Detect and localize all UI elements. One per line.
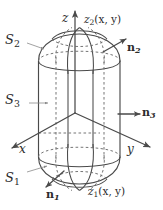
normal-label-n1-base: n: [46, 188, 54, 201]
surface-label-S2: S2: [5, 33, 20, 48]
surface-label-S3: S3: [5, 93, 20, 108]
top-apex-back-arc: [52, 39, 107, 47]
axis-label-z: z: [62, 12, 68, 24]
surface-label-S1-sub: 1: [14, 176, 20, 187]
geometry-figure: z x y S2 S3 S1 n2 n3 n1 z2(x, y) z1(x, y…: [0, 0, 163, 210]
top-cap-outline: [39, 34, 121, 61]
normal-vector-n2: [103, 39, 126, 52]
normal-label-n2: n2: [127, 42, 141, 55]
normal-label-n1: n1: [46, 189, 60, 202]
surface-label-S1-base: S: [5, 170, 14, 185]
normal-label-n3-base: n: [142, 106, 150, 119]
surface-label-S2-base: S: [5, 32, 14, 47]
hidden-lines: [39, 28, 121, 191]
surface-label-S1: S1: [5, 171, 20, 186]
lower-junction-front-arc: [39, 157, 121, 167]
function-label-z1: z1(x, y): [88, 186, 125, 199]
surface-label-S3-sub: 3: [14, 98, 20, 109]
function-label-z2-args: (x, y): [94, 13, 121, 25]
bottom-base-back-arc: [52, 172, 107, 180]
bottom-cap-outline: [39, 157, 121, 184]
normal-label-n1-sub: 1: [54, 192, 60, 202]
coordinate-axes: [12, 11, 150, 148]
upper-junction-back-arc: [39, 51, 121, 61]
figure-drawing: [0, 0, 163, 210]
normal-label-n3: n3: [142, 107, 156, 120]
axis-label-y: y: [127, 143, 134, 155]
y-axis: [75, 113, 150, 147]
function-label-z1-args: (x, y): [98, 185, 125, 197]
normal-label-n2-base: n: [127, 41, 135, 54]
normal-label-n3-sub: 3: [150, 110, 156, 120]
lower-junction-back-arc: [39, 147, 121, 157]
surface-label-S2-sub: 2: [14, 38, 20, 49]
upper-junction-front-arc: [39, 61, 121, 71]
label-leader-lines: [27, 43, 48, 172]
leader-line-S2: [27, 43, 44, 49]
normal-label-n2-sub: 2: [135, 45, 141, 55]
function-label-z2: z2(x, y): [84, 14, 121, 27]
solid-body-outline: [39, 34, 121, 184]
axis-label-x: x: [19, 143, 26, 155]
surface-label-S3-base: S: [5, 92, 14, 107]
